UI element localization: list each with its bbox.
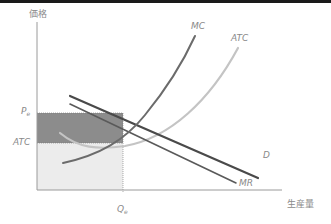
pe-subscript: e: [26, 110, 30, 117]
total-cost-area: [37, 143, 123, 190]
qe-subscript: e: [124, 208, 128, 215]
pe-label: Pe: [21, 106, 30, 117]
mc-label: MC: [191, 21, 205, 31]
atc-level-label: ATC: [13, 137, 30, 147]
y-axis-label: 価格: [29, 7, 47, 20]
mr-label: MR: [239, 178, 253, 188]
profit-area: [37, 113, 123, 143]
demand-label: D: [263, 150, 270, 160]
atc-curve-label: ATC: [231, 33, 248, 43]
x-axis-label: 生産量: [287, 197, 314, 210]
chart-canvas: [0, 0, 331, 224]
qe-label: Qe: [117, 204, 128, 215]
